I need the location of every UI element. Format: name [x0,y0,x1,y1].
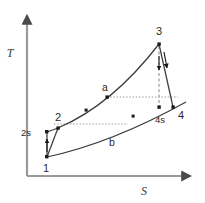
marker-point-2s [45,130,48,133]
thermodynamic-ts-chart: T S [0,0,205,203]
marker-point-1 [45,155,48,158]
label-point-4: 4 [178,109,184,121]
axes-group: T S [7,16,190,198]
label-point-4s: 4s [155,114,165,125]
marker-point-a [105,95,108,98]
marker-tick-upper-mid [85,109,88,112]
curve-2-to-3-heat-addition [58,44,159,128]
label-process-b: b [109,136,115,148]
label-point-3: 3 [156,25,162,37]
marker-point-4 [171,105,174,108]
ts-diagram-figure: T S [0,0,205,203]
label-process-a: a [102,81,108,93]
marker-tick-lower-mid [132,115,135,118]
y-axis-label: T [7,46,15,60]
marker-point-2 [56,126,59,129]
label-point-1: 1 [43,162,49,174]
line-1-to-2-actual-compression [47,128,58,157]
marker-point-4s [157,105,160,108]
line-3-to-4-actual-expansion [159,44,173,107]
x-axis-label: S [141,184,147,198]
label-point-2s: 2s [21,127,31,138]
label-point-2: 2 [55,111,61,123]
marker-point-3 [157,42,160,45]
curve-1-to-4-lower-isobar [47,102,186,157]
arrow-actual-expansion-down-icon [164,52,167,68]
direction-arrows-group [47,52,167,152]
